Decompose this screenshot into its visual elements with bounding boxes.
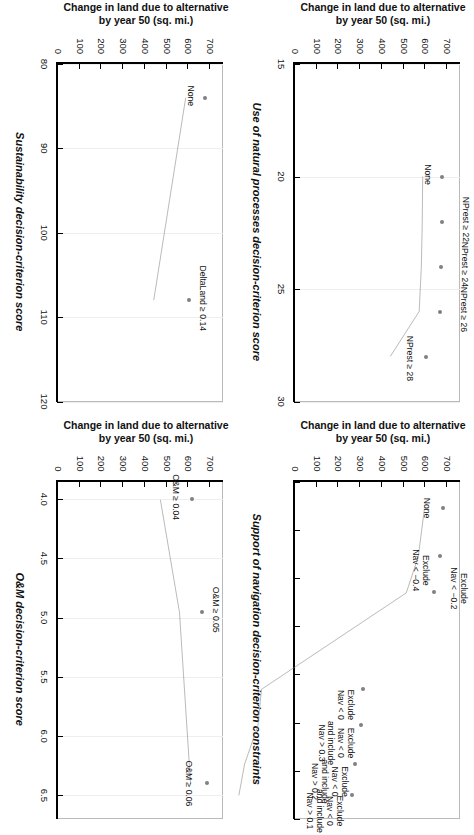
y-tick-label: 700 bbox=[441, 38, 452, 54]
y-tick-label: 400 bbox=[139, 38, 150, 54]
data-point-label: O&M ≥ 0.05 bbox=[210, 587, 220, 633]
panel-navigation: Change in land due to alternativeby year… bbox=[237, 418, 474, 835]
y-tick-label: 100 bbox=[311, 38, 322, 54]
data-point-label: None bbox=[421, 498, 431, 519]
y-tick-label: 700 bbox=[204, 38, 215, 54]
y-tick-label: 0 bbox=[53, 466, 64, 471]
axes: 152025300100200300400500600700NoneNPrest… bbox=[293, 62, 460, 402]
x-tick-mark bbox=[294, 819, 300, 820]
plot-area: 80901001101200100200300400500600700NoneD… bbox=[56, 62, 223, 402]
y-tick-label: 200 bbox=[333, 456, 344, 472]
y-tick-label: 200 bbox=[96, 38, 107, 54]
axes: 80901001101200100200300400500600700NoneD… bbox=[56, 62, 223, 402]
y-tick-label: 600 bbox=[420, 38, 431, 54]
data-point-label: ExcludeNav < −0.2 bbox=[448, 567, 468, 609]
y-axis-title-holder: Change in land due to alternativeby year… bbox=[56, 16, 237, 17]
y-tick-label: 500 bbox=[161, 456, 172, 472]
axes: 0100200300400500600700NoneExcludeNav < −… bbox=[293, 480, 460, 820]
data-point-marker bbox=[203, 96, 207, 100]
data-point-label: ExcludeNav < −0.4 bbox=[410, 549, 430, 591]
figure-rotator: Change in land due to alternativeby year… bbox=[0, 0, 474, 835]
x-tick-mark bbox=[57, 402, 63, 403]
axes: 4.04.55.05.56.06.50100200300400500600700… bbox=[56, 480, 223, 820]
data-point-label: NPrest ≥ 26 bbox=[458, 287, 468, 332]
y-tick-label: 0 bbox=[53, 49, 64, 54]
data-point-marker bbox=[438, 554, 442, 558]
data-point-marker bbox=[361, 687, 365, 691]
plot-area: 0100200300400500600700NoneExcludeNav < −… bbox=[293, 480, 460, 820]
data-point-marker bbox=[440, 220, 444, 224]
y-axis-title: Change in land due to alternativeby year… bbox=[62, 418, 232, 444]
data-point-marker bbox=[440, 175, 444, 179]
y-tick-label: 100 bbox=[74, 38, 85, 54]
y-tick-label: 200 bbox=[96, 456, 107, 472]
y-tick-label: 100 bbox=[74, 456, 85, 472]
y-tick-label: 400 bbox=[139, 456, 150, 472]
data-point-marker bbox=[200, 610, 204, 614]
y-tick-label: 500 bbox=[398, 456, 409, 472]
data-point-marker bbox=[441, 506, 445, 510]
y-tick-label: 500 bbox=[398, 38, 409, 54]
data-point-label: ExcludeNav < 0and includeNav > 0.3 bbox=[316, 721, 356, 765]
y-axis-title: Change in land due to alternativeby year… bbox=[299, 418, 469, 444]
y-tick-label: 100 bbox=[311, 456, 322, 472]
y-axis-title-holder: Change in land due to alternativeby year… bbox=[293, 16, 474, 17]
plot-area: 152025300100200300400500600700NoneNPrest… bbox=[293, 62, 460, 402]
y-tick-label: 500 bbox=[161, 38, 172, 54]
plot-area: 4.04.55.05.56.06.50100200300400500600700… bbox=[56, 480, 223, 820]
y-tick-label: 600 bbox=[183, 38, 194, 54]
panel-om: Change in land due to alternativeby year… bbox=[0, 418, 237, 835]
panel-grid: Change in land due to alternativeby year… bbox=[0, 0, 474, 835]
data-point-marker bbox=[353, 762, 357, 766]
y-tick-label: 700 bbox=[441, 456, 452, 472]
y-tick-label: 400 bbox=[376, 456, 387, 472]
data-point-label: None bbox=[422, 164, 432, 185]
data-point-label: NPrest ≥ 28 bbox=[404, 336, 414, 381]
data-point-label: O&M ≥ 0.06 bbox=[183, 761, 193, 807]
series-line bbox=[0, 64, 223, 402]
y-axis-title-holder: Change in land due to alternativeby year… bbox=[293, 434, 474, 435]
gridline-vertical bbox=[295, 402, 460, 403]
y-tick-label: 400 bbox=[376, 38, 387, 54]
data-point-label: NPrest ≥ 22 bbox=[460, 197, 470, 242]
data-point-label: NPrest ≥ 24 bbox=[459, 242, 469, 287]
y-tick-label: 0 bbox=[290, 49, 301, 54]
y-axis-title-holder: Change in land due to alternativeby year… bbox=[56, 434, 237, 435]
y-axis-title: Change in land due to alternativeby year… bbox=[62, 1, 232, 27]
panel-sustainability: Change in land due to alternativeby year… bbox=[0, 0, 237, 418]
data-point-marker bbox=[438, 310, 442, 314]
panel-natural-processes: Change in land due to alternativeby year… bbox=[237, 0, 474, 418]
data-point-marker bbox=[350, 793, 354, 797]
data-point-label: ExcludeNav < 0and includeNav > 0.1 bbox=[304, 789, 344, 833]
y-tick-label: 600 bbox=[420, 456, 431, 472]
data-point-label: ExcludeNav < 0 bbox=[335, 690, 355, 721]
data-point-marker bbox=[424, 355, 428, 359]
y-tick-label: 300 bbox=[355, 456, 366, 472]
y-tick-label: 200 bbox=[333, 38, 344, 54]
gridline-vertical bbox=[58, 402, 223, 403]
y-tick-label: 600 bbox=[183, 456, 194, 472]
y-tick-label: 300 bbox=[355, 38, 366, 54]
y-tick-label: 300 bbox=[118, 456, 129, 472]
data-point-label: None bbox=[185, 85, 195, 106]
data-point-label: DeltaLand ≥ 0.14 bbox=[197, 266, 207, 331]
y-axis-title: Change in land due to alternativeby year… bbox=[299, 1, 469, 27]
y-tick-label: 700 bbox=[204, 456, 215, 472]
data-point-marker bbox=[439, 265, 443, 269]
x-tick-mark bbox=[294, 402, 300, 403]
data-point-label: O&M ≥ 0.04 bbox=[171, 474, 181, 520]
y-tick-label: 300 bbox=[118, 38, 129, 54]
y-tick-label: 0 bbox=[290, 466, 301, 471]
